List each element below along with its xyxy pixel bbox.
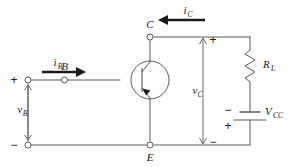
supply-symbol: V: [265, 105, 273, 117]
load-resistor-symbol: R: [262, 58, 270, 70]
base-voltage-subscript: B: [23, 109, 28, 118]
supply-label: V CC: [265, 105, 284, 120]
transistor-emitter-arrow-icon: [143, 89, 151, 96]
input-minus-sign: −: [10, 138, 17, 152]
transistor-circuit-diagram: B C E + − i B i C v B v C + − R: [0, 0, 289, 167]
node-base: [62, 77, 68, 83]
node-input-minus: [25, 142, 31, 148]
node-collector: [147, 34, 153, 40]
collector-voltage-label: v C: [193, 84, 204, 99]
supply-plus-sign: +: [224, 119, 231, 133]
collector-current-arrow: [158, 15, 205, 25]
collector-current-symbol: i: [183, 4, 186, 16]
supply-subscript: CC: [273, 111, 284, 120]
transistor-envelope-circle: [131, 61, 169, 99]
base-current-subscript: B: [58, 62, 63, 71]
circuit-schematic-canvas: B C E + − i B i C v B v C + − R: [0, 0, 289, 167]
node-emitter: [147, 142, 153, 148]
base-current-label: i B: [53, 56, 62, 71]
collector-current-arrowhead-icon: [158, 15, 168, 25]
node-label-collector: C: [146, 18, 154, 30]
base-current-arrowhead-icon: [76, 67, 86, 77]
input-plus-sign: +: [10, 73, 17, 87]
load-resistor-subscript: L: [270, 64, 275, 73]
base-current-symbol: i: [53, 56, 56, 68]
terminal-nodes: [25, 34, 153, 148]
collector-current-label: i C: [183, 4, 193, 19]
load-resistor-label: R L: [262, 58, 275, 73]
transistor-collector-lead: [142, 62, 150, 72]
collector-voltage-plus-sign: +: [209, 33, 216, 47]
node-label-emitter: E: [146, 151, 154, 163]
node-input-plus: [25, 77, 31, 83]
base-voltage-label: v B: [18, 103, 28, 118]
collector-voltage-minus-sign: −: [209, 135, 216, 149]
transistor-symbol: [131, 61, 169, 99]
load-resistor-zigzag: [245, 50, 255, 82]
collector-current-subscript: C: [187, 10, 193, 19]
supply-minus-sign: −: [224, 103, 231, 117]
